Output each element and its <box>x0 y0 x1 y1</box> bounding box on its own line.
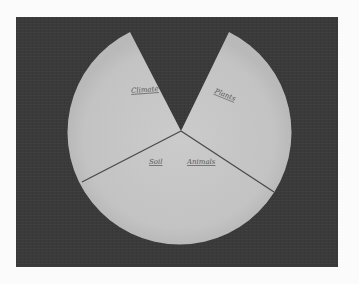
paper-plate <box>0 0 359 284</box>
label-animals: Animals <box>187 158 215 166</box>
label-soil: Soil <box>149 158 163 166</box>
plate-shape <box>68 32 292 244</box>
